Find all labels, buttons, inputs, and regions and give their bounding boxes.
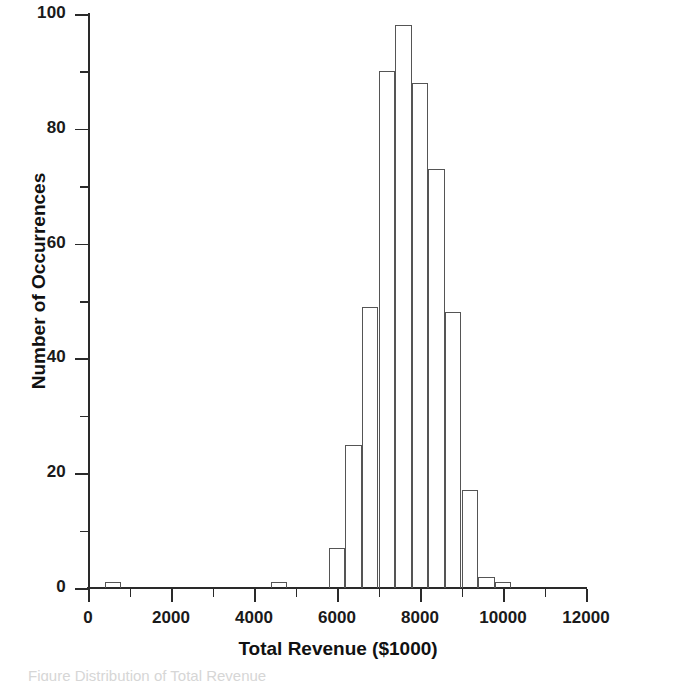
x-tick-major xyxy=(420,589,422,602)
x-tick-label: 8000 xyxy=(375,608,465,628)
y-tick-major xyxy=(75,473,88,475)
y-tick-label: 20 xyxy=(6,462,66,482)
histogram-bar xyxy=(329,548,346,588)
histogram-bar xyxy=(105,582,122,588)
histogram-chart: Number of Occurrences Total Revenue ($10… xyxy=(0,0,692,681)
histogram-bar xyxy=(495,582,512,588)
y-tick-major xyxy=(75,129,88,131)
y-tick-major xyxy=(75,588,88,590)
figure-caption-text: Figure Distribution of Total Revenue xyxy=(28,668,692,681)
histogram-bar xyxy=(462,490,479,588)
x-tick-minor xyxy=(462,589,464,597)
plot-area xyxy=(88,14,586,588)
histogram-bar xyxy=(412,83,429,588)
y-tick-label: 60 xyxy=(6,233,66,253)
y-axis-title: Number of Occurrences xyxy=(28,46,50,516)
x-tick-minor xyxy=(296,589,298,597)
x-tick-label: 0 xyxy=(43,608,133,628)
histogram-bar xyxy=(362,307,379,588)
y-tick-minor xyxy=(80,301,88,303)
histogram-bar xyxy=(445,312,462,588)
x-tick-major xyxy=(337,589,339,602)
histogram-bar xyxy=(428,169,445,588)
y-tick-major xyxy=(75,358,88,360)
x-tick-label: 12000 xyxy=(541,608,631,628)
y-tick-minor xyxy=(80,71,88,73)
x-tick-major xyxy=(503,589,505,602)
figure-caption: Figure Distribution of Total Revenue xyxy=(0,668,692,681)
y-tick-major xyxy=(75,14,88,16)
y-tick-minor xyxy=(80,416,88,418)
x-tick-minor xyxy=(130,589,132,597)
x-tick-label: 4000 xyxy=(209,608,299,628)
x-tick-label: 6000 xyxy=(292,608,382,628)
y-tick-label: 100 xyxy=(6,3,66,23)
histogram-bar xyxy=(478,577,495,588)
y-tick-label: 80 xyxy=(6,118,66,138)
x-tick-major xyxy=(171,589,173,602)
y-tick-label: 0 xyxy=(6,577,66,597)
x-tick-label: 10000 xyxy=(458,608,548,628)
y-tick-major xyxy=(75,244,88,246)
x-tick-minor xyxy=(213,589,215,597)
x-tick-minor xyxy=(545,589,547,597)
y-tick-minor xyxy=(80,186,88,188)
x-tick-major xyxy=(586,589,588,602)
histogram-bar xyxy=(379,71,396,588)
x-tick-major xyxy=(254,589,256,602)
y-tick-minor xyxy=(80,531,88,533)
x-tick-minor xyxy=(379,589,381,597)
x-tick-label: 2000 xyxy=(126,608,216,628)
x-tick-major xyxy=(88,589,90,602)
histogram-bar xyxy=(345,445,362,589)
x-axis-title: Total Revenue ($1000) xyxy=(88,638,588,660)
y-tick-label: 40 xyxy=(6,347,66,367)
histogram-bar xyxy=(271,582,288,588)
histogram-bar xyxy=(395,25,412,588)
